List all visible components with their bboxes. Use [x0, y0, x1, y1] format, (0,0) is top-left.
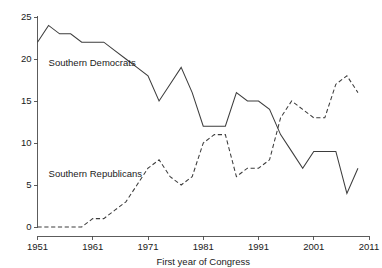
- x-tick-label: 1951: [27, 241, 48, 252]
- x-tick-label: 1971: [137, 241, 158, 252]
- series-label-southern-republicans: Southern Republicans: [49, 168, 143, 179]
- series-group: [38, 25, 358, 227]
- y-tick-label: 25: [21, 11, 32, 22]
- y-tick-label: 20: [21, 53, 32, 64]
- x-axis: 1951196119711981199120012011: [27, 236, 379, 252]
- x-tick-label: 1961: [82, 241, 103, 252]
- line-chart: 0510152025 1951196119711981199120012011 …: [0, 0, 382, 268]
- chart-container: 0510152025 1951196119711981199120012011 …: [0, 0, 382, 268]
- y-tick-label: 5: [26, 179, 31, 190]
- x-tick-label: 2001: [303, 241, 324, 252]
- x-tick-label: 2011: [359, 241, 379, 252]
- x-tick-label: 1991: [248, 241, 269, 252]
- series-line-southern-republicans: [38, 76, 358, 227]
- y-tick-label: 15: [21, 95, 32, 106]
- y-tick-label: 0: [26, 221, 31, 232]
- x-tick-group: 1951196119711981199120012011: [27, 236, 379, 252]
- y-tick-label: 10: [21, 137, 32, 148]
- y-axis: 0510152025: [21, 11, 38, 232]
- series-label-group: Southern DemocratsSouthern Republicans: [49, 57, 143, 179]
- x-axis-title: First year of Congress: [157, 256, 251, 267]
- x-tick-label: 1981: [193, 241, 214, 252]
- series-label-southern-democrats: Southern Democrats: [49, 57, 136, 68]
- y-tick-group: 0510152025: [21, 11, 38, 232]
